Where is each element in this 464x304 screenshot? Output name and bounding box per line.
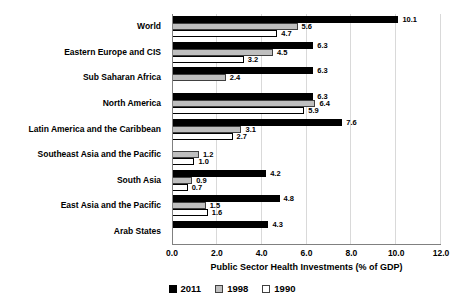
value-label: 5.6: [302, 23, 312, 30]
x-axis-tick-labels: 0.02.04.06.08.010.012.0: [0, 248, 464, 260]
value-label: 4.8: [284, 195, 294, 202]
bar-slot: 4.7: [172, 30, 441, 37]
legend-item-1990: 1990: [262, 284, 295, 294]
bar-1998: [172, 23, 298, 30]
value-label: 7.6: [346, 119, 356, 126]
bar-slot: 2.4: [172, 74, 441, 81]
value-label: 1.0: [198, 158, 208, 165]
value-label: 4.7: [281, 30, 291, 37]
bar-2011: [172, 119, 342, 126]
category-label: Southeast Asia and the Pacific: [0, 142, 165, 168]
bar-1990: [172, 56, 244, 63]
health-investments-bar-chart: WorldEastern Europe and CISSub Saharan A…: [0, 0, 464, 304]
value-label: 5.9: [308, 107, 318, 114]
value-label: 3.1: [245, 126, 255, 133]
bar-1998: [172, 100, 315, 107]
legend-swatch-2011: [169, 285, 177, 293]
bar-group: 7.63.12.7: [172, 116, 441, 142]
value-label: 4.3: [272, 221, 282, 228]
value-label: 1.6: [212, 209, 222, 216]
x-tick-label: 4.0: [242, 248, 282, 259]
value-label: 4.2: [270, 170, 280, 177]
plot-area: 10.15.64.76.34.53.26.32.46.36.45.97.63.1…: [172, 14, 441, 244]
bar-2011: [172, 195, 280, 202]
legend-label: 1990: [274, 284, 295, 294]
bar-group: 4.20.90.7: [172, 167, 441, 193]
value-label: 10.1: [402, 16, 417, 23]
legend-item-2011: 2011: [169, 284, 202, 294]
category-label: East Asia and the Pacific: [0, 193, 165, 219]
bar-1990: [172, 209, 208, 216]
bar-slot: 7.6: [172, 119, 441, 126]
bar-slot: 4.2: [172, 170, 441, 177]
bar-1998: [172, 151, 199, 158]
bar-slot: [172, 81, 441, 88]
bar-group: 4.3: [172, 219, 441, 245]
bar-slot: 5.6: [172, 23, 441, 30]
category-label: South Asia: [0, 167, 165, 193]
bar-slot: 1.2: [172, 151, 441, 158]
bar-1990: [172, 133, 233, 140]
bar-slot: 0.7: [172, 184, 441, 191]
value-label: 2.7: [237, 133, 247, 140]
legend-swatch-1998: [215, 285, 223, 293]
legend-item-1998: 1998: [215, 284, 248, 294]
bar-slot: 1.6: [172, 209, 441, 216]
bar-1990: [172, 107, 304, 114]
bar-2011: [172, 221, 268, 228]
bar-1990: [172, 184, 188, 191]
value-label: 3.2: [248, 56, 258, 63]
bar-slot: 5.9: [172, 107, 441, 114]
category-axis-labels: WorldEastern Europe and CISSub Saharan A…: [0, 14, 165, 244]
value-label: 6.4: [319, 100, 329, 107]
x-axis-title: Public Sector Health Investments (% of G…: [172, 261, 441, 273]
category-label: Arab States: [0, 219, 165, 245]
bar-1998: [172, 126, 241, 133]
category-label: North America: [0, 91, 165, 117]
bar-1990: [172, 30, 277, 37]
x-tick-label: 0.0: [152, 248, 192, 259]
value-label: 6.3: [317, 42, 327, 49]
bar-slot: 6.4: [172, 100, 441, 107]
bar-2011: [172, 42, 313, 49]
bar-groups: 10.15.64.76.34.53.26.32.46.36.45.97.63.1…: [172, 14, 441, 244]
bar-group: 10.15.64.7: [172, 14, 441, 40]
bar-slot: 6.3: [172, 67, 441, 74]
bar-slot: 3.2: [172, 56, 441, 63]
bar-slot: 4.3: [172, 221, 441, 228]
category-label: Latin America and the Caribbean: [0, 116, 165, 142]
x-tick-label: 10.0: [376, 248, 416, 259]
bar-1990: [172, 158, 194, 165]
value-label: 4.5: [277, 49, 287, 56]
x-tick-label: 12.0: [421, 248, 461, 259]
bar-group: 4.81.51.6: [172, 193, 441, 219]
legend-label: 2011: [181, 284, 202, 294]
bar-2011: [172, 170, 266, 177]
legend: 201119981990: [0, 281, 464, 297]
legend-swatch-1990: [262, 285, 270, 293]
bar-2011: [172, 93, 313, 100]
bar-slot: [172, 235, 441, 242]
category-label: World: [0, 14, 165, 40]
bar-slot: 1.0: [172, 158, 441, 165]
x-tick-label: 6.0: [287, 248, 327, 259]
y-axis-line: [172, 14, 173, 244]
bar-slot: 3.1: [172, 126, 441, 133]
bar-1998: [172, 177, 192, 184]
bar-group: 6.34.53.2: [172, 40, 441, 66]
bar-slot: 0.9: [172, 177, 441, 184]
bar-group: 1.21.0: [172, 142, 441, 168]
category-label: Sub Saharan Africa: [0, 65, 165, 91]
bar-1998: [172, 74, 226, 81]
bar-slot: 4.5: [172, 49, 441, 56]
x-tick-label: 2.0: [197, 248, 237, 259]
bar-1998: [172, 202, 206, 209]
bar-slot: 6.3: [172, 42, 441, 49]
bar-group: 6.36.45.9: [172, 91, 441, 117]
bar-2011: [172, 16, 398, 23]
bar-slot: [172, 228, 441, 235]
x-tick-label: 8.0: [331, 248, 371, 259]
category-label: Eastern Europe and CIS: [0, 40, 165, 66]
legend-label: 1998: [227, 284, 248, 294]
bar-slot: 2.7: [172, 133, 441, 140]
